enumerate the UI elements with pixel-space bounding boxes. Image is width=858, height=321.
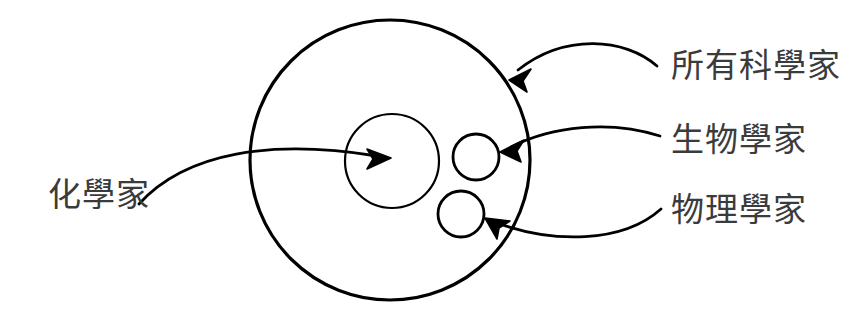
label-all-scientists: 所有科學家 xyxy=(671,49,841,82)
circle-chemists xyxy=(345,114,439,208)
arrow-biologists xyxy=(500,127,660,162)
circle-physicists xyxy=(438,191,484,237)
diagram-canvas: 所有科學家 生物學家 物理學家 化學家 xyxy=(0,0,858,321)
arrow-physicists xyxy=(485,209,661,239)
arrow-all-scientists xyxy=(509,44,657,92)
label-biologists: 生物學家 xyxy=(671,123,807,156)
label-physicists: 物理學家 xyxy=(671,193,807,226)
label-chemists: 化學家 xyxy=(48,178,150,211)
circle-biologists xyxy=(453,134,499,180)
arrow-chemists xyxy=(139,149,391,204)
circle-all-scientists xyxy=(250,20,530,300)
